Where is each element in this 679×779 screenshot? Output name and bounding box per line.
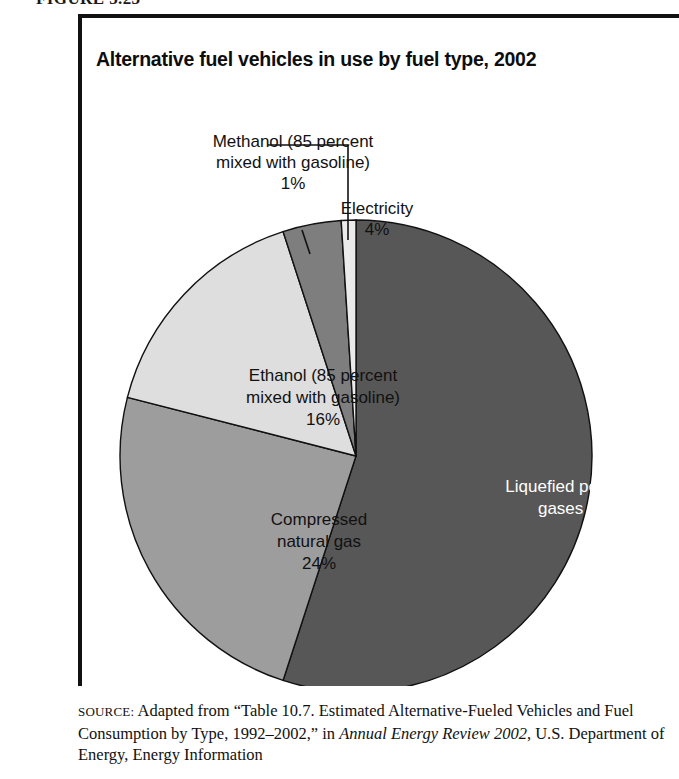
source-line-1: Adapted from “Table 10.7. Estimated Alte…	[134, 701, 512, 720]
source-publication-part-2: Energy Review 2002	[391, 724, 527, 743]
slice-label-ethanol: Ethanol (85 percent mixed with gasoline)…	[204, 365, 442, 431]
pie-chart-canvas	[78, 14, 679, 686]
pie-chart: Methanol (85 percent mixed with gasoline…	[78, 14, 679, 686]
source-publication-part-1: Annual	[339, 724, 387, 743]
slice-label-compressed-natural-gas: Compressed natural gas 24%	[224, 509, 414, 575]
slice-label-methanol: Methanol (85 percent mixed with gasoline…	[182, 131, 404, 194]
source-note: SOURCE: Adapted from “Table 10.7. Estima…	[78, 700, 676, 766]
slice-label-electricity: Electricity 4%	[306, 198, 448, 240]
slice-label-liquefied-petroleum-gases: Liquefied petroleum gases 55%	[474, 476, 679, 520]
source-prefix: SOURCE:	[78, 704, 134, 719]
figure-number: FIGURE 5.23	[36, 0, 141, 9]
pie-slice-group	[120, 220, 592, 686]
